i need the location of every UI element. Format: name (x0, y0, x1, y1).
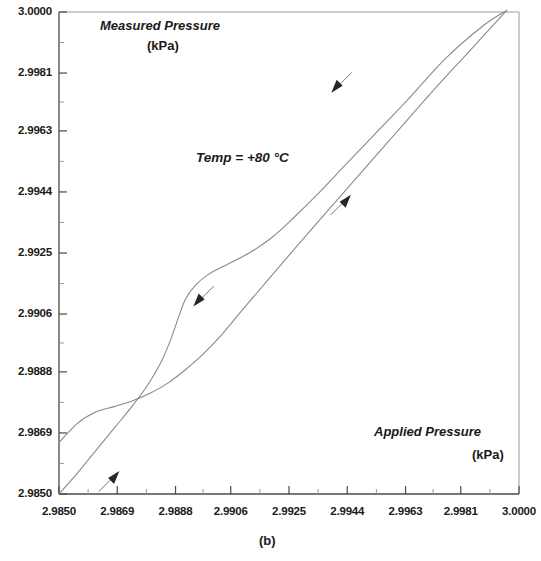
x-tick-label: 2.9888 (148, 505, 204, 517)
arrow-lower-loading-head (108, 471, 119, 484)
y-tick-label: 2.9869 (0, 426, 52, 438)
y-tick-label: 2.9944 (0, 185, 52, 197)
x-tick-label: 2.9869 (89, 505, 145, 517)
x-tick-label: 2.9925 (261, 505, 317, 517)
temperature-annotation: Temp = +80 °C (196, 150, 289, 165)
data-curves (59, 10, 507, 494)
y-tick-label: 2.9981 (0, 66, 52, 78)
y-tick-label: 2.9963 (0, 124, 52, 136)
arrow-middle-unloading-head (193, 293, 204, 306)
x-axis-title: Applied Pressure (374, 424, 481, 439)
y-tick-label: 2.9925 (0, 246, 52, 258)
y-axis-unit: (kPa) (147, 38, 179, 53)
x-tick-label: 2.9981 (433, 505, 489, 517)
plot-frame (59, 12, 519, 494)
x-tick-label: 2.9963 (378, 505, 434, 517)
x-tick-label: 3.0000 (491, 505, 541, 517)
axis-ticks (59, 12, 519, 494)
arrow-middle-loading-head (340, 195, 351, 208)
x-tick-label: 2.9906 (203, 505, 259, 517)
arrow-upper-unloading-head (331, 80, 342, 93)
x-axis-unit: (kPa) (472, 447, 504, 462)
y-tick-label: 2.9850 (0, 487, 52, 499)
y-tick-label: 2.9906 (0, 307, 52, 319)
x-tick-label: 2.9850 (31, 505, 87, 517)
x-tick-label: 2.9944 (319, 505, 375, 517)
y-axis-title: Measured Pressure (100, 18, 220, 33)
direction-arrows (99, 72, 352, 491)
figure-caption: (b) (259, 533, 276, 548)
y-tick-label: 3.0000 (0, 5, 52, 17)
y-tick-label: 2.9888 (0, 365, 52, 377)
curve-decreasing-pressure-branch (59, 10, 507, 442)
